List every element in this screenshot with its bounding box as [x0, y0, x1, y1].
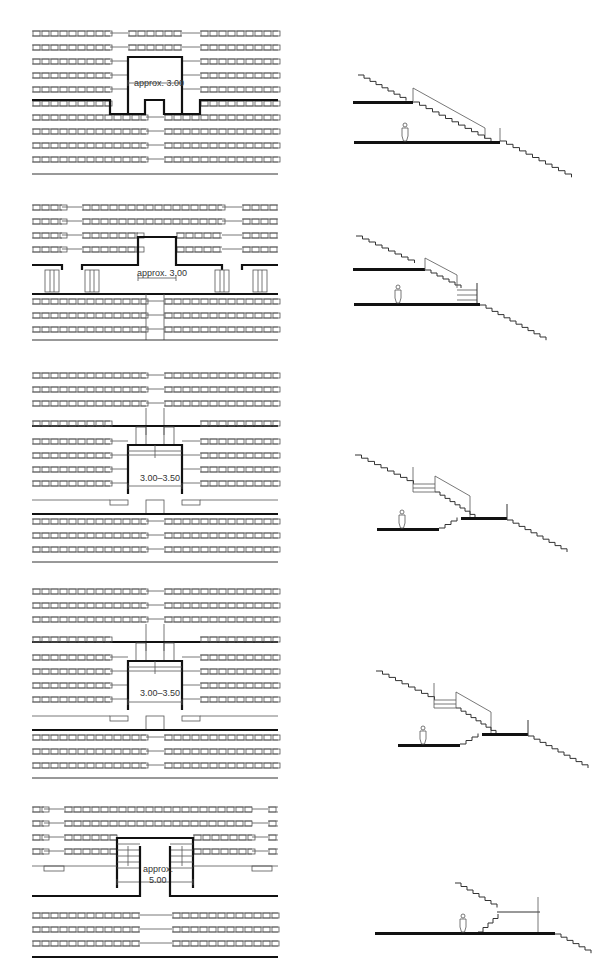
- row2-dimension-label: approx. 3.00: [137, 268, 187, 278]
- human-figure-icon: [420, 726, 426, 744]
- row4-plan: [32, 589, 280, 778]
- row5-dimension-label-1: approx.: [143, 864, 173, 874]
- row3-section: [355, 455, 567, 552]
- row1-dimension-label: approx. 3.00: [134, 78, 184, 88]
- human-figure-icon: [399, 510, 405, 528]
- row5-dimension-label-2: 5.00: [149, 875, 167, 885]
- row4-section: [376, 671, 588, 768]
- row4-dimension-label: 3.00–3.50: [140, 688, 180, 698]
- row3-dimension-label: 3.00–3.50: [140, 473, 180, 483]
- human-figure-icon: [395, 285, 401, 303]
- row3-plan: [32, 373, 280, 562]
- row5-section: [375, 883, 591, 953]
- row1-plan: [32, 31, 280, 174]
- row2-section: [353, 236, 546, 340]
- row1-section: [353, 75, 572, 177]
- diagram-canvas: [0, 0, 611, 979]
- human-figure-icon: [460, 914, 466, 932]
- human-figure-icon: [402, 123, 408, 141]
